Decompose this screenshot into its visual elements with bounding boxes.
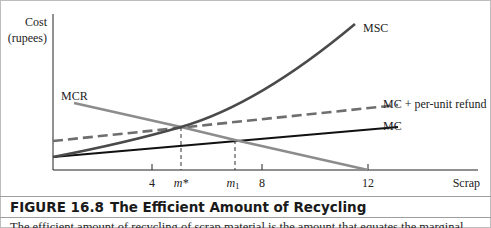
figure-caption: FIGURE 16.8The Efficient Amount of Recyc… — [0, 196, 491, 218]
y-axis-unit: (rupees) — [8, 31, 47, 45]
figure-number: FIGURE 16.8 — [10, 199, 104, 215]
tick-label-m1: m1 — [226, 176, 239, 191]
mc-label: MC — [383, 119, 402, 133]
tick-label-8: 8 — [259, 176, 265, 190]
tick-label-mstar: m* — [174, 176, 189, 190]
figure-title: The Efficient Amount of Recycling — [110, 199, 366, 215]
x-axis-label: Scrap — [453, 176, 480, 190]
mcr-label: MCR — [61, 89, 88, 103]
tick-label-4: 4 — [149, 176, 155, 190]
msc-label: MSC — [363, 21, 388, 35]
tick-label-12: 12 — [362, 176, 374, 190]
mc-curve — [53, 127, 398, 157]
y-axis-label: Cost — [25, 15, 48, 29]
mc-refund-label: MC + per-unit refund — [383, 97, 487, 111]
body-text: The efficient amount of recycling of scr… — [10, 220, 464, 228]
chart: Cost (rupees) MSC MCR MC + per-unit refu… — [0, 0, 491, 196]
